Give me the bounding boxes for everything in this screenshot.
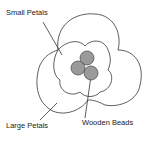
bead-left	[71, 61, 85, 75]
wooden-beads	[71, 51, 98, 80]
small-petals-label: Small Petals	[6, 8, 48, 17]
flower-diagram: Small Petals Large Petals Wooden Beads	[0, 0, 153, 141]
wooden-beads-leader	[85, 76, 91, 118]
bead-right	[84, 66, 98, 80]
small-petals-leader	[43, 22, 62, 55]
large-petals-label: Large Petals	[6, 121, 48, 130]
wooden-beads-label: Wooden Beads	[82, 118, 133, 127]
